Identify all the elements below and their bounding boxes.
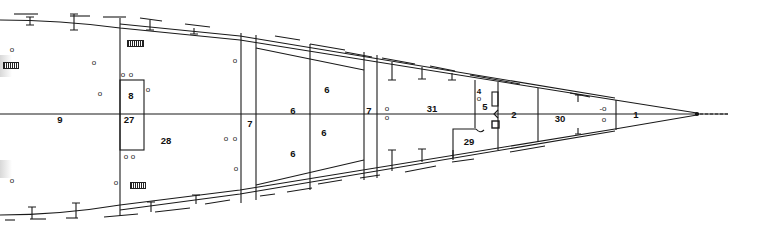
hull-edge-bottom (0, 115, 697, 215)
compartment-label-27: 27 (124, 115, 135, 125)
offset-dashes-top (14, 14, 590, 97)
deck-edge-bottom (120, 131, 615, 210)
compartment-label-29: 29 (464, 137, 475, 147)
compartment-label-5: 5 (482, 102, 487, 112)
hole-marker: o (114, 179, 118, 187)
hole-marker: o (124, 153, 128, 161)
bow-tip (695, 112, 699, 116)
compartment-label-6: 6 (290, 106, 295, 116)
hole-marker: o (234, 165, 238, 173)
hole-marker: o (131, 153, 135, 161)
compartment-label-30: 30 (555, 114, 566, 124)
hatch-5 (492, 92, 498, 106)
compartment-label-8: 8 (128, 91, 133, 101)
hole-marker: o (121, 71, 125, 79)
hole-marker: o (10, 46, 14, 54)
offset-dashes-bottom (5, 146, 545, 220)
compartment-label-28: 28 (161, 136, 172, 146)
compartment-label-6: 6 (324, 85, 329, 95)
hole-marker: o (233, 135, 237, 143)
hole-marker: o (10, 177, 14, 185)
hole-marker: o (224, 135, 228, 143)
compartment-label-9: 9 (57, 115, 62, 125)
hole-marker: o (477, 95, 481, 103)
hull-deck-plan: 9 27 8 28 7 6 6 6 6 7 31 4 5 3 29 2 30 1… (0, 0, 770, 238)
compartment-label-1: 1 (633, 110, 638, 120)
hole-marker: o (146, 86, 150, 94)
vent-grille (3, 62, 19, 69)
hole-marker: o (129, 71, 133, 79)
hole-marker: o (385, 105, 389, 113)
compartment-29-hook (476, 129, 484, 132)
compartment-label-7: 7 (247, 119, 252, 129)
hole-marker: o (92, 59, 96, 67)
vent-grille (127, 40, 144, 47)
compartment-label-6: 6 (321, 128, 326, 138)
hole-marker: o (602, 116, 606, 124)
hole-marker: o (385, 114, 389, 122)
hole-marker: o (233, 57, 237, 65)
compartment-label-3: 3 (493, 121, 497, 128)
compartment-label-2: 2 (511, 110, 516, 120)
compartment-label-31: 31 (427, 104, 438, 114)
vent-grille (130, 182, 146, 189)
compartment-label-6: 6 (290, 149, 295, 159)
compartment-label-7: 7 (366, 106, 371, 116)
hole-marker: -o (599, 105, 606, 113)
hole-marker: o (98, 90, 102, 98)
